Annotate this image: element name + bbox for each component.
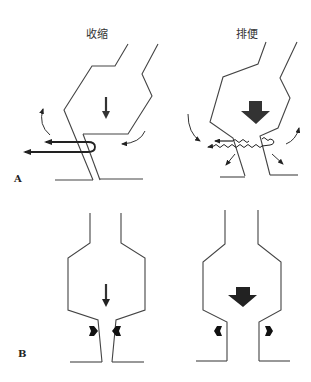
- rectum-inner-wall: [83, 134, 100, 180]
- canal-right-wall: [258, 210, 281, 361]
- curved-arrow-right-icon: [122, 131, 145, 144]
- outward-arrow-right-icon: [265, 326, 273, 336]
- curved-arrow-left-icon: [42, 109, 50, 135]
- curved-arrow-left-icon: [188, 114, 200, 141]
- large-down-arrow-icon: [228, 287, 257, 307]
- anorectal-diagram: [0, 0, 311, 382]
- down-arrow-icon: [102, 111, 110, 119]
- inward-arrow-right-icon: [112, 326, 121, 336]
- outward-arrow-right-icon: [272, 154, 283, 164]
- inward-arrow-left-icon: [89, 326, 98, 336]
- defecation-arrows: [188, 100, 299, 165]
- outward-arrow-left-icon: [214, 326, 222, 336]
- down-arrow-icon: [102, 299, 110, 307]
- contraction-arrows: [25, 97, 145, 152]
- rectum-right-wall: [260, 42, 297, 175]
- panel-b-defecation-arrows: [214, 287, 273, 336]
- panel-b-contraction-arrows: [89, 284, 121, 336]
- canal-left-wall: [68, 213, 102, 362]
- outward-arrow-left-icon: [226, 154, 235, 165]
- panel-b-defecation: [196, 210, 290, 361]
- canal-left-wall: [203, 210, 227, 361]
- rectum-left-wall: [64, 44, 128, 180]
- wavy-sling-icon: [233, 140, 249, 143]
- curved-arrow-right-icon: [286, 128, 299, 144]
- canal-right-wall: [112, 213, 145, 362]
